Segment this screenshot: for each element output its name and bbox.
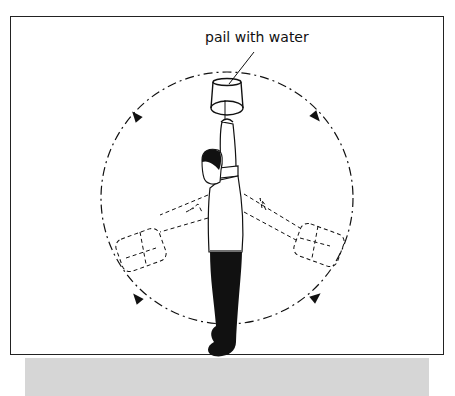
- person-figure: [202, 119, 243, 356]
- arrow-icon-top-left: [129, 109, 143, 123]
- arrow-icon-bottom-right: [309, 290, 323, 304]
- arrow-icon-bottom-left: [130, 291, 144, 305]
- pail-label: pail with water: [205, 29, 309, 45]
- dashed-arm-left: [114, 195, 208, 274]
- pail-diagram: [0, 0, 455, 396]
- pail-icon: [211, 79, 243, 123]
- dashed-arm-right: [244, 194, 346, 269]
- arrow-icon-top-right: [309, 110, 323, 124]
